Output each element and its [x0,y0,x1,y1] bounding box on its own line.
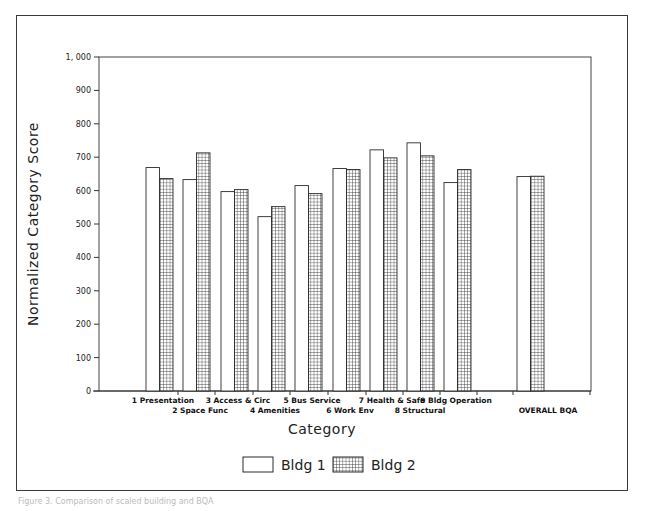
bar-bldg-2 [531,176,545,391]
y-tick-label: 600 [76,187,91,196]
y-tick-label: 300 [76,287,91,296]
y-tick-label: 400 [76,253,91,262]
category-label: 1 Presentation [132,396,194,405]
bar-bldg-2 [347,170,361,391]
bar-bldg-1 [444,183,458,391]
category-label: 3 Access & Circ [206,396,271,405]
bar-bldg-2 [160,179,174,391]
bar-bldg-1 [183,180,197,391]
bar-bldg-2 [309,194,323,391]
bar-bldg-2 [272,207,286,391]
category-label: 7 Health & Safe [359,396,425,405]
y-axis-title: Normalized Category Score [25,122,41,326]
category-label: 4 Amenities [250,406,301,415]
x-axis: 1 Presentation2 Space Func3 Access & Cir… [93,391,591,415]
bar-bldg-1 [517,177,531,391]
figure-caption: Figure 3. Comparison of scaled building … [18,497,214,506]
category-label: 9 Bldg Operation [420,396,492,405]
bar-bldg-1 [407,143,421,391]
legend-swatch-bldg-1 [243,457,273,472]
category-label: 6 Work Env [326,406,374,415]
bar-bldg-2 [421,156,435,391]
y-tick-label: 800 [76,120,91,129]
bar-bldg-1 [221,192,235,391]
bar-bldg-1 [146,168,160,391]
bar-chart: 01002003004005006007008009001, 000 1 Pre… [0,0,645,511]
category-label: 5 Bus Service [283,396,340,405]
legend: Bldg 1 Bldg 2 [243,457,416,473]
bar-bldg-2 [458,170,472,391]
bar-bldg-1 [333,169,347,391]
x-axis-title: Category [288,421,356,437]
bar-bldg-2 [384,158,398,391]
y-tick-label: 0 [86,387,91,396]
category-label: 2 Space Func [172,406,228,415]
y-tick-label: 1, 000 [66,53,91,62]
bar-bldg-2 [197,153,211,391]
bar-bldg-1 [295,186,309,391]
y-tick-label: 500 [76,220,91,229]
category-label: 8 Structural [395,406,446,415]
y-axis: 01002003004005006007008009001, 000 [66,53,99,396]
bar-bldg-1 [258,217,272,391]
legend-swatch-bldg-2 [333,457,363,472]
category-label: OVERALL BQA [519,406,578,415]
legend-label-bldg-2: Bldg 2 [371,457,416,473]
y-tick-label: 200 [76,320,91,329]
y-tick-label: 900 [76,86,91,95]
y-tick-label: 100 [76,354,91,363]
bars [146,143,544,391]
bar-bldg-1 [370,150,384,391]
bar-bldg-2 [235,190,249,391]
legend-label-bldg-1: Bldg 1 [281,457,326,473]
y-tick-label: 700 [76,153,91,162]
